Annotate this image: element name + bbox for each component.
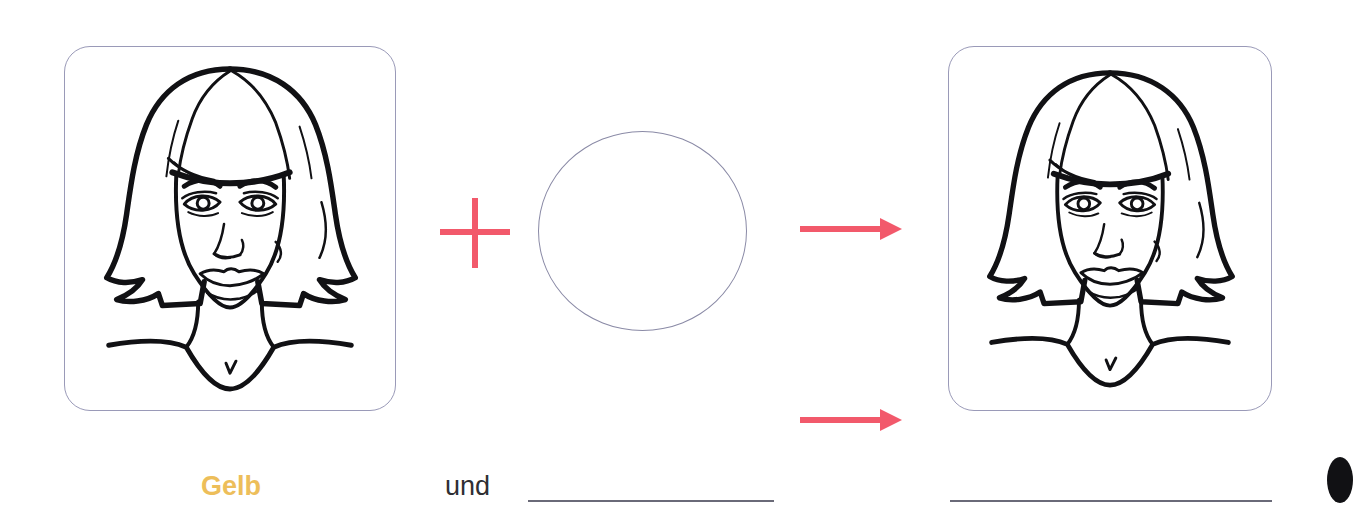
arrow-right-icon-bottom [800, 400, 906, 440]
color-label-gelb: Gelb [201, 470, 261, 502]
woman-face-line-art-icon [65, 47, 395, 410]
caption-row: Gelb und [0, 462, 1341, 519]
color-circle-blank[interactable] [538, 131, 747, 331]
arrow-head [880, 409, 902, 431]
woman-face-line-art-icon [949, 47, 1271, 410]
face-panel-before [64, 46, 396, 411]
answer-blank-line-1[interactable] [528, 500, 774, 502]
arrow-shaft [800, 226, 886, 232]
plus-icon [440, 198, 510, 268]
arrow-right-icon-top [800, 209, 906, 249]
plus-vertical-bar [472, 198, 478, 268]
conjunction-label-und: und [445, 470, 490, 502]
arrow-shaft [800, 417, 886, 423]
cut-off-glyph-right-edge [1327, 457, 1353, 503]
arrow-head [880, 218, 902, 240]
answer-blank-line-2[interactable] [950, 500, 1272, 502]
face-panel-after [948, 46, 1272, 411]
